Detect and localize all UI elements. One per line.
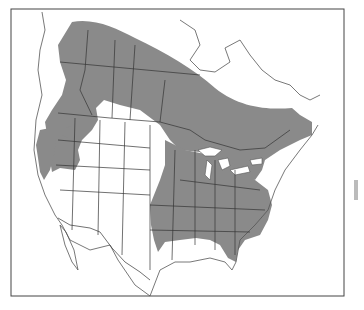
range-map — [0, 0, 364, 310]
page-edge-artifact — [354, 180, 358, 200]
